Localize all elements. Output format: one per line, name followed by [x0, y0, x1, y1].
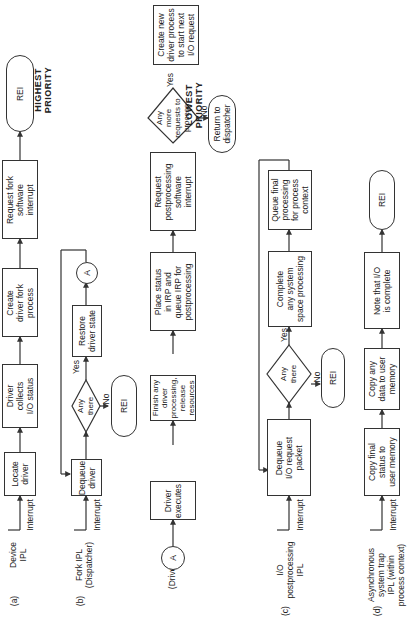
step-locate-driver: Locate driver — [4, 452, 36, 496]
row-b-entry: Interrupt — [92, 495, 102, 535]
terminal-rei-d: REI — [369, 170, 395, 230]
terminal-rei-a: REI — [6, 55, 34, 132]
row-a-tag: (a) — [9, 591, 19, 611]
step-note-io-complete: Note that I/O is complete — [364, 252, 400, 329]
step-complete-system-space-processing: Complete any system space processing — [268, 251, 312, 327]
step-request-postprocessing-interrupt: Request postprocessing software interrup… — [150, 152, 196, 231]
step-place-status-in-irp: Place status in IRP and queue IRP for po… — [150, 252, 196, 331]
step-dequeue-driver: Dequeue driver — [71, 459, 102, 496]
step-copy-data-to-user-memory: Copy any data to user memory — [364, 348, 400, 410]
yes-label-driver: Yes — [165, 70, 175, 90]
highest-priority-label: HIGHEST PRIORITY — [33, 65, 53, 115]
connector-a-in: A — [161, 546, 185, 570]
step-copy-final-status: Copy final status to user memory — [364, 428, 400, 496]
step-create-fork-process: Create driver fork process — [2, 268, 38, 337]
decision-any-there-b: Any there — [72, 380, 100, 432]
step-dequeue-io-request-packet: Dequeue I/O request packet — [267, 419, 311, 496]
step-request-fork-interrupt: Request fork software interrupt — [2, 160, 38, 239]
row-c-entry: Interrupt — [295, 495, 305, 535]
connector-a-out: A — [76, 262, 98, 284]
step-driver-executes: Driver executes — [150, 481, 196, 520]
flow-connectors — [0, 0, 415, 626]
yes-label-c: Yes — [279, 325, 289, 345]
decision-more-requests: Any more requests to process — [148, 88, 198, 148]
step-restore-driver-state: Restore driver state — [72, 305, 102, 357]
row-a-level: Device IPL — [8, 535, 28, 575]
no-label-b: No — [101, 391, 111, 407]
terminal-rei-b: REI — [111, 375, 137, 437]
step-create-new-driver-process: Create new driver process to start next … — [153, 5, 199, 65]
row-b-level: Fork IPL (Dispatcher) — [74, 535, 94, 595]
row-c-level: I/O postprocessing IPL — [275, 535, 305, 605]
step-queue-final-processing: Queue final processing for process conte… — [268, 170, 312, 230]
row-a-entry: Interrupt — [25, 495, 35, 535]
terminal-rei-c: REI — [321, 348, 345, 408]
terminal-return-to-dispatcher: Return to dispatcher — [208, 95, 236, 153]
decision-any-there-c: Any there — [267, 345, 311, 403]
step-finish-driver-processing: Finish any driver processing, release re… — [150, 375, 196, 421]
row-d-entry: Interrupt — [388, 495, 398, 535]
yes-label-b: Yes — [71, 357, 81, 377]
step-driver-collects-status: Driver collects I/O status — [2, 364, 38, 428]
row-d-level: Asynchronous system trap IPL (within pro… — [366, 535, 406, 615]
